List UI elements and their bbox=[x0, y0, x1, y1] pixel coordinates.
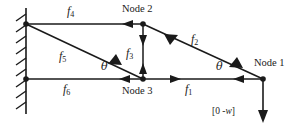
arrow-f4-left bbox=[122, 20, 133, 28]
arrow-f1-left bbox=[233, 75, 244, 83]
member-label-f3: f3 bbox=[126, 47, 133, 61]
arrow-f6-left bbox=[119, 75, 130, 83]
joint-node-3 bbox=[140, 76, 146, 82]
member-label-f5: f5 bbox=[59, 50, 66, 64]
truss-figure: f4 f2 f3 f5 f6 f1 Node 2 Node 3 Node 1 θ… bbox=[0, 0, 292, 128]
arrow-f3-up bbox=[139, 63, 147, 74]
angle-label-theta-right: θ bbox=[216, 61, 223, 72]
node-label-node-3: Node 3 bbox=[122, 86, 153, 97]
joint-node-2 bbox=[140, 21, 146, 27]
arrow-f2-downright bbox=[229, 57, 243, 68]
angle-label-theta-left: θ bbox=[101, 61, 108, 72]
arrow-f5-toward3 bbox=[108, 54, 122, 65]
wall-hatching bbox=[16, 14, 26, 109]
node-label-node-1: Node 1 bbox=[254, 58, 285, 69]
arrow-f1-right bbox=[170, 75, 181, 83]
member-label-f6: f6 bbox=[63, 83, 70, 97]
member-label-f1: f1 bbox=[185, 83, 192, 97]
applied-load-label: [0 -w] bbox=[212, 107, 235, 117]
member-label-f2: f2 bbox=[191, 33, 198, 47]
applied-load-arrow bbox=[258, 79, 268, 123]
node-label-node-2: Node 2 bbox=[122, 4, 153, 15]
joint-wall-bottom bbox=[23, 76, 29, 82]
arrow-f3-down bbox=[139, 35, 147, 46]
joint-wall-top bbox=[23, 21, 29, 27]
member-f2 bbox=[143, 24, 263, 79]
truss-drawing-canvas bbox=[0, 0, 292, 128]
member-label-f4: f4 bbox=[67, 5, 74, 19]
joint-node-1 bbox=[260, 76, 266, 82]
